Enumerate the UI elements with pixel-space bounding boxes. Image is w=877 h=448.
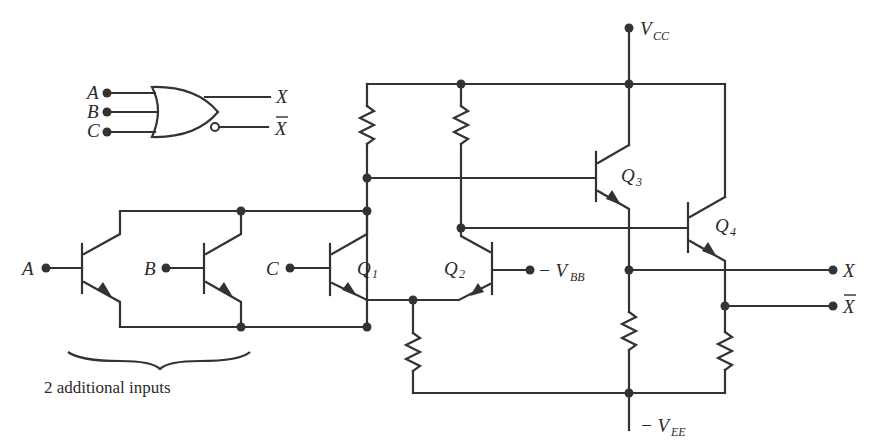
additional-inputs-brace: 2 additional inputs (44, 352, 250, 397)
q2-label: Q (444, 258, 458, 279)
output-x-label: X (842, 260, 856, 281)
gate-output-xbar-label: X (274, 118, 288, 139)
pulldown-resistor-xbar (718, 306, 732, 393)
inversion-bubble (211, 123, 219, 131)
transistor-q1: C Q 1 (266, 211, 413, 300)
input-c-label: C (266, 258, 279, 279)
output-x-terminal (829, 266, 838, 275)
additional-inputs-label: 2 additional inputs (44, 378, 171, 397)
circuit-diagram: A B C X X V CC (0, 0, 877, 448)
vcc-label: V (640, 18, 654, 39)
or-gate-body (152, 87, 218, 137)
vbb-subscript: BB (570, 270, 585, 284)
vcc-supply: V CC (367, 18, 725, 197)
vee-supply: − V EE (413, 389, 725, 440)
transistor-q2: − V BB Q 2 (413, 228, 585, 300)
logic-gate-symbol: A B C X X (85, 82, 289, 141)
q3-label: Q (621, 165, 635, 186)
transistor-q3: Q 3 (596, 84, 642, 270)
gate-input-b-label: B (87, 101, 99, 122)
gate-input-c-label: C (87, 120, 100, 141)
vbb-terminal (526, 266, 535, 275)
input-a-label: A (20, 258, 34, 279)
vee-label: − V (640, 415, 672, 436)
vcc-subscript: CC (653, 29, 670, 43)
transistor-q4: Q 4 (688, 197, 736, 306)
pulldown-resistor-x (622, 270, 636, 393)
collector-resistor-2 (454, 84, 468, 233)
q2-subscript: 2 (459, 267, 465, 281)
input-b-label: B (144, 258, 156, 279)
q4-subscript: 4 (730, 225, 736, 239)
vee-subscript: EE (670, 425, 686, 439)
gate-output-x-label: X (275, 86, 289, 107)
q4-label: Q (715, 215, 729, 236)
output-x: X (625, 260, 857, 281)
transistor-input-b: B (144, 211, 241, 327)
output-xbar: X (721, 295, 857, 317)
output-xbar-terminal (829, 302, 838, 311)
transistor-input-a: A (20, 211, 120, 327)
collector-resistor-1 (360, 84, 374, 327)
emitter-resistor (406, 300, 420, 393)
q3-subscript: 3 (635, 175, 642, 189)
q1-subscript: 1 (372, 267, 378, 281)
q1-label: Q (357, 258, 371, 279)
output-xbar-label: X (842, 296, 856, 317)
gate-input-a-label: A (85, 82, 99, 103)
vbb-label: − V (538, 260, 570, 281)
